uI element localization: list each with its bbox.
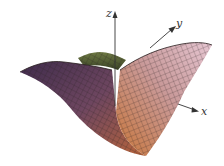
x-axis [178,104,199,113]
z-axis-label: z [106,8,112,19]
x-axis-label: x [201,106,207,117]
y-axis [150,26,176,48]
surface-plot [0,0,224,166]
surface-right-wing [116,43,212,156]
y-axis-label: y [176,18,182,29]
